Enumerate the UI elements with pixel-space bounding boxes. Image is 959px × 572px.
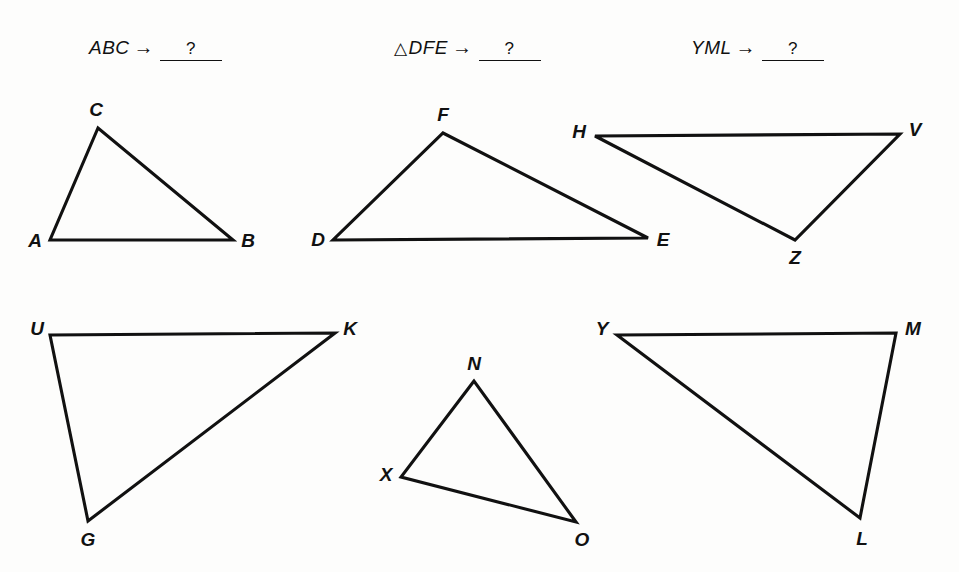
answer-blank-abc[interactable]: ? [160,39,222,61]
worksheet-page: ABC→? △DFE→? YML→? ABCDEFHVZUKGNXOYML [0,0,959,572]
vertex-label-g: G [81,529,96,551]
vertex-label-k: K [343,318,357,340]
arrow-icon-yml: → [732,36,763,58]
triangle-abc [50,128,233,240]
triangle-figures-svg [0,0,959,572]
vertex-label-e: E [657,229,670,251]
vertex-label-u: U [30,318,44,340]
triangle-hvz [595,134,900,240]
vertex-label-d: D [311,229,325,251]
prompt-label-abc: ABC [89,37,130,58]
triangle-yml [617,333,896,518]
prompt-label-yml: YML [691,37,732,58]
answer-blank-yml[interactable]: ? [762,39,824,61]
vertex-label-m: M [905,318,921,340]
vertex-label-a: A [28,230,42,252]
vertex-label-o: O [575,529,590,551]
triangle-xno [401,381,576,522]
triangle-symbol-dfe: △ [394,39,409,58]
answer-blank-dfe[interactable]: ? [479,39,541,61]
prompt-dfe: △DFE→? [394,36,541,61]
vertex-label-b: B [241,230,255,252]
prompt-yml: YML→? [690,36,824,61]
arrow-icon-abc: → [130,36,161,58]
vertex-label-n: N [467,353,481,375]
triangle-dfe [333,133,648,240]
vertex-label-z: Z [789,247,801,269]
vertex-label-f: F [437,104,449,126]
vertex-label-x: X [380,464,393,486]
arrow-icon-dfe: → [448,36,479,58]
prompt-abc: ABC→? [88,36,222,61]
vertex-label-c: C [89,99,103,121]
triangle-ukg [50,333,335,521]
prompt-label-dfe: DFE [409,37,449,58]
vertex-label-v: V [909,119,922,141]
vertex-label-l: L [856,528,868,550]
vertex-label-h: H [572,121,586,143]
vertex-label-y: Y [596,318,609,340]
